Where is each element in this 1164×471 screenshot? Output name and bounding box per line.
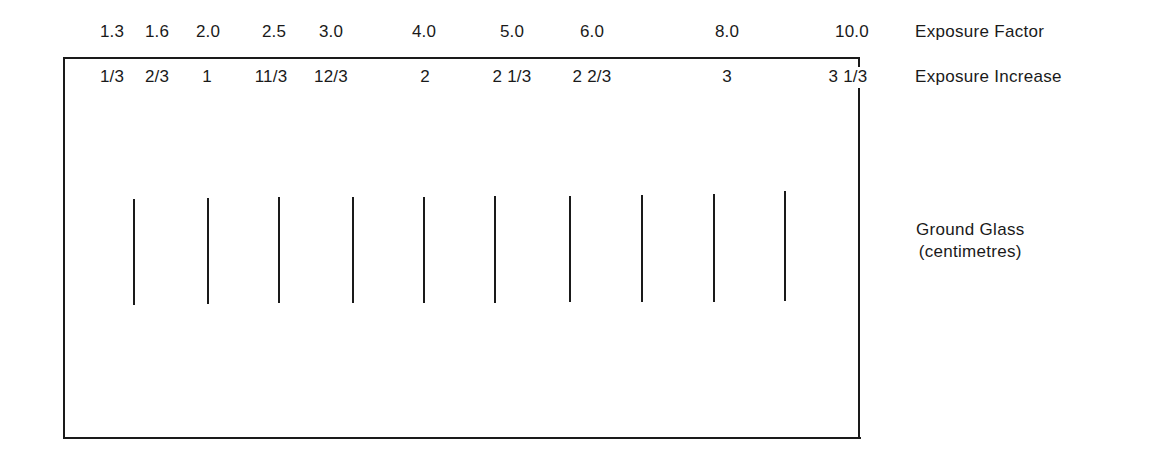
exposure-factor-value: 2.0	[196, 22, 220, 42]
exposure-increase-value: 2	[420, 67, 430, 87]
frame-right-edge-upper	[858, 57, 860, 67]
ground-glass-tick	[713, 194, 715, 302]
ground-glass-tick	[784, 191, 786, 301]
exposure-factor-value: 5.0	[500, 22, 524, 42]
ground-glass-title: Ground Glass	[916, 219, 1024, 241]
exposure-factor-value: 1.6	[145, 22, 169, 42]
frame-bottom-edge	[63, 437, 861, 439]
ground-glass-tick	[278, 197, 280, 303]
exposure-factor-value: 4.0	[412, 22, 436, 42]
ground-glass-tick	[569, 196, 571, 302]
ground-glass-tick	[641, 195, 643, 302]
ground-glass-tick	[207, 198, 209, 304]
frame-left-edge	[63, 57, 65, 439]
exposure-factor-value: 2.5	[262, 22, 286, 42]
exposure-increase-value: 12/3	[314, 67, 348, 87]
exposure-scale-diagram: 1.3 1.6 2.0 2.5 3.0 4.0 5.0 6.0 8.0 10.0…	[0, 0, 1164, 471]
exposure-factor-value: 3.0	[319, 22, 343, 42]
exposure-increase-value: 2 2/3	[573, 67, 612, 87]
exposure-factor-value: 10.0	[835, 22, 869, 42]
exposure-factor-value: 1.3	[100, 22, 124, 42]
exposure-increase-value: 1/3	[100, 67, 124, 87]
exposure-increase-value: 2 1/3	[493, 67, 532, 87]
exposure-increase-value: 3 1/3	[827, 67, 870, 87]
frame-right-edge-lower	[858, 88, 860, 439]
exposure-increase-title: Exposure Increase	[915, 67, 1062, 87]
ground-glass-unit: (centimetres)	[916, 241, 1024, 263]
exposure-increase-value: 3	[722, 67, 732, 87]
exposure-increase-value: 2/3	[145, 67, 169, 87]
exposure-factor-value: 6.0	[580, 22, 604, 42]
exposure-factor-title: Exposure Factor	[915, 22, 1044, 42]
ground-glass-tick	[133, 199, 135, 305]
exposure-increase-value: 1	[202, 67, 212, 87]
ground-glass-label: Ground Glass (centimetres)	[916, 219, 1024, 263]
exposure-factor-value: 8.0	[715, 22, 739, 42]
frame-top-edge	[63, 57, 860, 59]
ground-glass-tick	[494, 196, 496, 303]
ground-glass-tick	[352, 197, 354, 303]
exposure-increase-value: 11/3	[255, 67, 288, 87]
ground-glass-tick	[423, 197, 425, 303]
